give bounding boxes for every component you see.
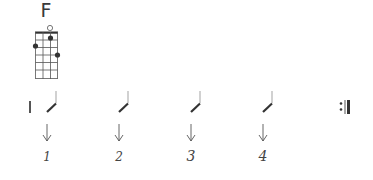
beat-number: 3 — [183, 148, 199, 164]
open-string-marker-icon — [47, 25, 52, 30]
strum-slash-icon — [44, 89, 60, 116]
strum-slash-icon — [260, 89, 276, 116]
nut — [35, 32, 58, 34]
down-arrow-icon — [185, 122, 197, 144]
down-arrow-icon — [257, 122, 269, 144]
down-arrow-icon — [113, 122, 125, 144]
strum-slash-icon — [188, 89, 204, 116]
finger-dot-icon — [48, 35, 53, 40]
beat-number: 4 — [255, 148, 271, 164]
repeat-end-icon — [338, 98, 354, 116]
down-arrow-icon — [41, 122, 53, 144]
finger-dot-icon — [55, 52, 60, 57]
chord-diagram — [28, 22, 68, 84]
start-barline — [29, 101, 31, 113]
beat-number: 1 — [39, 150, 55, 164]
finger-dot-icon — [33, 43, 38, 48]
beat-number: 2 — [111, 150, 127, 164]
chord-name: F — [36, 0, 56, 20]
strum-slash-icon — [116, 89, 132, 116]
